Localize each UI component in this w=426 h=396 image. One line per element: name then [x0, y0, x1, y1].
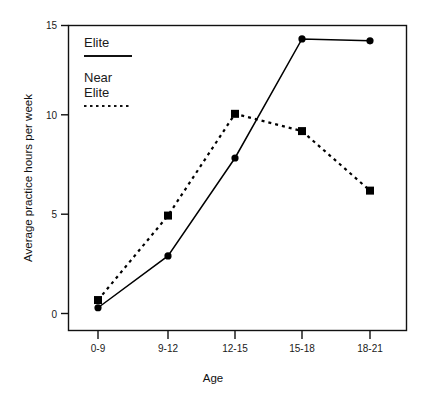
y-tick-label-15: 15: [46, 20, 58, 31]
legend-label-near: Near: [84, 70, 113, 85]
series-line-elite: [98, 39, 370, 308]
data-point-elite-9-12: [164, 252, 171, 259]
data-point-near-elite-9-12: [164, 212, 172, 220]
series-line-near-elite: [98, 114, 370, 300]
legend-label-near-elite: Elite: [84, 85, 109, 100]
data-point-near-elite-18-21: [366, 187, 374, 195]
data-series-layer: [94, 35, 374, 311]
line-chart: 15 10 5 0 0-9 9-12 12-15 15-18 18-21 Age…: [0, 0, 426, 396]
x-tick-label-15-18: 15-18: [289, 343, 315, 354]
x-tick-label-18-21: 18-21: [357, 343, 383, 354]
x-axis-ticks: [98, 331, 370, 340]
data-point-near-elite-15-18: [298, 127, 306, 135]
y-axis-title: Average practice hours per week: [22, 94, 34, 262]
data-point-elite-12-15: [231, 154, 238, 161]
x-tick-label-12-15: 12-15: [222, 343, 248, 354]
chart-container: 15 10 5 0 0-9 9-12 12-15 15-18 18-21 Age…: [0, 0, 426, 396]
data-point-elite-18-21: [366, 37, 373, 44]
data-point-near-elite-12-15: [231, 110, 239, 118]
data-point-elite-15-18: [298, 35, 305, 42]
y-tick-label-5: 5: [51, 209, 57, 220]
legend-label-elite: Elite: [84, 35, 109, 50]
y-axis-ticks: [61, 26, 69, 314]
y-tick-label-10: 10: [46, 110, 58, 121]
x-axis-title: Age: [203, 372, 223, 384]
legend: Elite Near Elite: [84, 35, 132, 106]
data-point-elite-0-9: [94, 304, 101, 311]
y-tick-label-0: 0: [51, 309, 57, 320]
x-tick-label-0-9: 0-9: [91, 343, 106, 354]
x-tick-label-9-12: 9-12: [158, 343, 178, 354]
data-point-near-elite-0-9: [94, 296, 102, 304]
